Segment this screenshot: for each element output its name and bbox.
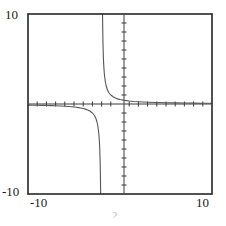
x-axis-min-label: -10 — [30, 196, 47, 209]
function-plot-figure: 10 -10 -10 10 2 — [0, 0, 226, 226]
y-axis-min-label: -10 — [2, 185, 19, 198]
y-axis-max-label: 10 — [5, 8, 18, 21]
figure-background — [0, 0, 226, 226]
partial-caption-glyph: 2 — [112, 209, 118, 218]
x-axis-max-label: 10 — [196, 196, 209, 209]
plot-canvas — [0, 0, 226, 226]
